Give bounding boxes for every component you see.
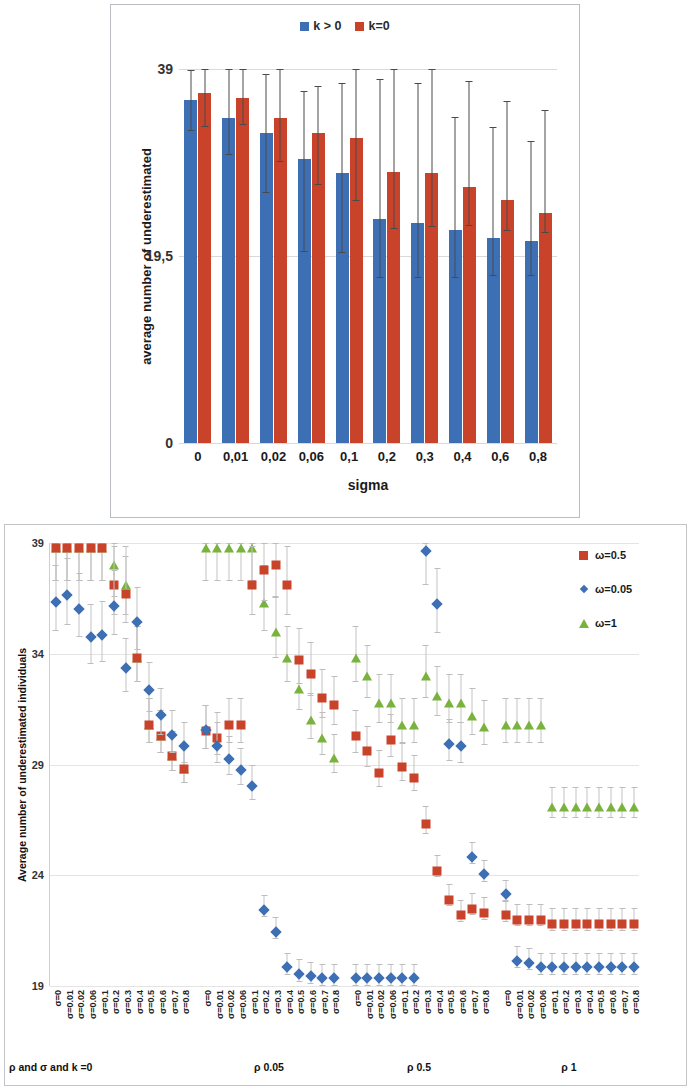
data-point-diamond [582,962,593,973]
legend-swatch-red [355,22,364,31]
top-chart-x-tick-labels: 00,010,020,060,10,20,30,40,60,8 [179,449,557,469]
data-point-triangle [351,654,361,663]
bottom-chart-x-tick-label: σ=0 [203,990,213,1006]
error-bar [507,101,508,231]
top-chart-bar-group [292,69,330,443]
data-point-square [386,736,395,745]
data-point-square [145,720,154,729]
top-chart-bar-wrapper [539,69,552,443]
bottom-chart-x-tick-label: σ=0.1 [400,990,410,1014]
data-point-diamond [443,738,454,749]
data-point-square [398,762,407,771]
bottom-chart-y-tick-label: 39 [32,537,44,549]
bottom-chart-x-tick-label: σ=0.02 [376,990,386,1019]
top-chart-x-tick-label: 0,02 [255,449,293,469]
top-chart-panel: k > 0 k=0 average number of underestimat… [110,4,580,518]
top-chart-bar-wrapper [198,69,211,443]
bottom-chart-data-column [523,543,535,986]
top-chart-bar-wrapper [411,69,424,443]
bottom-chart-x-tick-label: σ=0 [353,990,363,1006]
bottom-chart-data-column [212,543,224,986]
bottom-chart-legend: ω=0.5 ω=0.05 ω=1 [578,549,674,629]
bar-k-gt-0 [184,100,197,443]
bottom-chart-x-tick-label: σ=0.2 [261,990,271,1014]
bottom-chart-x-tick-label: σ=0.8 [331,990,341,1014]
bottom-chart-x-tick-label: σ=0.4 [135,990,145,1014]
bottom-chart-x-tick-label: σ=0.8 [631,990,641,1014]
data-point-square [133,654,142,663]
bottom-chart-x-tick-label: σ=0.2 [561,990,571,1014]
data-point-square [236,720,245,729]
bottom-chart-x-tick-label: σ=0.02 [226,990,236,1019]
data-point-triangle [559,802,569,811]
bottom-chart-group-label: ρ 0.05 [254,1061,284,1073]
bottom-chart-data-column [373,543,385,986]
bottom-chart-x-tick-label: σ=0.06 [388,990,398,1019]
top-chart-x-tick-label: 0,3 [406,449,444,469]
bottom-chart-group-label: ρ 1 [561,1061,576,1073]
bottom-chart-data-column [385,543,397,986]
bar-k-gt-0 [222,118,235,443]
data-point-square [63,543,72,552]
bottom-chart-x-tick-label: σ=0.6 [308,990,318,1014]
bar-k-eq-0 [539,213,552,443]
bottom-chart-x-tick-label: σ=0.3 [573,990,583,1014]
data-point-square [630,920,639,929]
error-bar [431,69,432,227]
data-point-diamond [535,962,546,973]
data-point-square [501,911,510,920]
legend-swatch-blue [300,22,309,31]
data-point-triangle [317,733,327,742]
top-chart-legend: k > 0 k=0 [111,19,579,33]
bottom-chart-x-tick-label: σ=0.3 [273,990,283,1014]
error-bar [275,543,276,597]
bottom-chart-data-column [512,543,524,986]
bottom-chart-x-tick-label: σ=0.06 [238,990,248,1019]
data-point-triangle [362,671,372,680]
bottom-chart-data-column [500,543,512,986]
bottom-chart-data-column [50,543,62,986]
top-chart-x-tick-label: 0,4 [444,449,482,469]
top-chart-y-tick-label: 0 [165,435,173,451]
data-point-square [318,694,327,703]
error-bar [304,91,305,252]
bottom-chart-x-tick-label: σ=0.01 [215,990,225,1019]
bottom-chart-x-tick-label: σ=0.7 [320,990,330,1014]
data-point-triangle [444,698,454,707]
data-point-square [180,765,189,774]
bottom-chart-x-tick-label: σ=0.2 [111,990,121,1014]
data-point-square [410,773,419,782]
bottom-chart-data-column [62,543,74,986]
data-point-triangle [582,802,592,811]
error-bar [318,86,319,185]
data-point-triangle [512,720,522,729]
data-point-square [468,904,477,913]
top-chart-bar-group [481,69,519,443]
bottom-chart-group-labels: ρ and σ and k =0ρ 0.05ρ 0.5ρ 1 [5,1061,686,1083]
top-chart-bar-wrapper [298,69,311,443]
data-point-square [433,866,442,875]
bottom-chart-data-column [223,543,235,986]
data-point-square [606,920,615,929]
data-point-diamond [350,973,361,984]
bottom-chart-data-column [293,543,305,986]
error-bar [228,69,229,155]
data-point-diamond [362,973,373,984]
top-chart-bar-wrapper [222,69,235,443]
data-point-diamond [305,971,316,982]
bottom-chart-x-tick-label: σ=0.7 [470,990,480,1014]
data-point-diamond [50,596,61,607]
data-point-diamond [628,962,639,973]
legend-label: k > 0 [313,19,341,33]
bottom-chart-data-column [200,543,212,986]
data-point-triangle [201,543,211,552]
bottom-chart-data-column [235,543,247,986]
bottom-chart-x-tick-label: σ=0.7 [170,990,180,1014]
error-bar [417,83,418,278]
bottom-chart-data-column [397,543,409,986]
data-point-triangle [282,654,292,663]
data-point-square [260,565,269,574]
data-point-square [283,581,292,590]
bottom-chart-data-column [478,543,490,986]
legend-item-k-gt-0: k > 0 [300,19,341,33]
